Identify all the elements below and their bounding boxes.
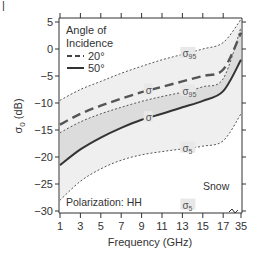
x-tick-label: 5 xyxy=(98,220,104,232)
x-tick-label: 35 xyxy=(235,220,247,232)
x-tick-label: 7 xyxy=(118,220,124,232)
x-tick-label: 13 xyxy=(176,220,188,232)
x-axis-title: Frequency (GHz) xyxy=(108,236,192,248)
axis-break-icon xyxy=(229,209,238,213)
legend-title-line2: Incidence xyxy=(66,37,113,49)
x-tick-label: 3 xyxy=(77,220,83,232)
y-tick-label: 0 xyxy=(47,43,53,55)
legend: Angle of Incidence 20° 50° xyxy=(66,24,113,74)
y-tick-label: −15 xyxy=(34,124,53,136)
y-tick-label: −5 xyxy=(40,70,53,82)
x-tick-label: 17 xyxy=(217,220,229,232)
medium-annotation: Snow xyxy=(203,180,230,192)
chart: 50−5−10−15−20−25−30135791113151735 σ95σ9… xyxy=(0,0,260,253)
x-tick-label: 15 xyxy=(197,220,209,232)
y-tick-label: −30 xyxy=(34,205,53,217)
curve-label: σ xyxy=(146,85,153,96)
legend-label-50: 50° xyxy=(88,62,105,74)
legend-label-20: 20° xyxy=(88,50,105,62)
y-tick-label: −20 xyxy=(34,151,53,163)
y-tick-label: 5 xyxy=(47,16,53,28)
x-tick-label: 9 xyxy=(139,220,145,232)
y-tick-label: −10 xyxy=(34,97,53,109)
y-axis-title: σ0 (dB) xyxy=(12,98,27,133)
x-tick-label: 1 xyxy=(57,220,63,232)
curve-label: σ xyxy=(146,112,153,123)
y-tick-label: −25 xyxy=(34,178,53,190)
legend-title-line1: Angle of xyxy=(66,24,107,36)
panel-marker: | xyxy=(2,0,5,11)
x-tick-label: 11 xyxy=(156,220,167,232)
polarization-annotation: Polarization: HH xyxy=(66,196,142,208)
